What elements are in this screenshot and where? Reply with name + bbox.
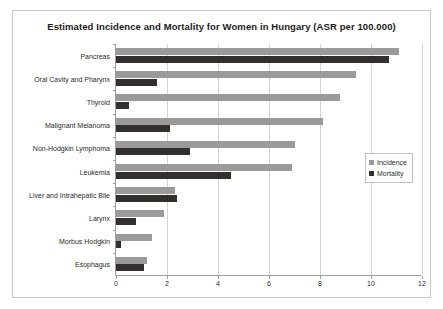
category-label: Non-Hodgkin Lymphoma [33,145,110,152]
bar-mortality [116,56,389,63]
x-axis-tick-label: 6 [267,280,271,287]
chart-container: Estimated Incidence and Mortality for Wo… [12,10,431,298]
category-label: Morbus Hodgkin [59,238,110,245]
category-label: Larynx [89,214,110,221]
x-axis-tick [422,276,423,279]
bar-incidence [116,118,323,125]
chart-legend: IncidenceMortality [365,153,413,183]
axis-tick [113,90,116,91]
bar-mortality [116,218,136,225]
bar-mortality [116,125,170,132]
bar-mortality [116,79,157,86]
category-label: Liver and Intrahepatic Bile [29,191,110,198]
bar-mortality [116,195,177,202]
bar-mortality [116,264,144,271]
x-axis-tick-label: 8 [318,280,322,287]
chart-category-row: Liver and Intrahepatic Bile [116,183,421,206]
legend-label: Mortality [377,170,403,177]
category-label: Leukemia [80,168,110,175]
bar-incidence [116,48,399,55]
chart-category-row: Malignant Melanoma [116,114,421,137]
category-label: Oral Cavity and Pharynx [34,75,110,82]
axis-tick [113,230,116,231]
chart-title: Estimated Incidence and Mortality for Wo… [13,21,430,32]
chart-category-row: Morbus Hodgkin [116,230,421,253]
axis-tick [113,183,116,184]
category-label: Malignant Melanoma [45,122,110,129]
legend-item: Incidence [369,157,407,168]
bar-incidence [116,164,292,171]
x-axis-tick [218,276,219,279]
chart-category-row: Thyroid [116,90,421,113]
x-axis-tick [167,276,168,279]
category-label: Thyroid [87,98,110,105]
legend-swatch-icon [369,160,374,165]
x-axis-tick-label: 10 [367,280,375,287]
x-axis-tick-label: 2 [165,280,169,287]
x-axis-tick [116,276,117,279]
bar-mortality [116,148,190,155]
gridline [422,44,423,275]
legend-label: Incidence [377,159,407,166]
bar-incidence [116,234,152,241]
x-axis-tick-label: 4 [216,280,220,287]
chart-category-row: Larynx [116,206,421,229]
category-label: Pancreas [80,52,110,59]
axis-tick [113,206,116,207]
axis-tick [113,114,116,115]
chart-category-row: Pancreas [116,44,421,67]
legend-swatch-icon [369,171,374,176]
axis-tick [113,67,116,68]
axis-tick [113,44,116,45]
x-axis-tick [320,276,321,279]
bar-incidence [116,210,164,217]
x-axis-tick [371,276,372,279]
bar-incidence [116,71,356,78]
axis-tick [113,137,116,138]
category-label: Esophagus [75,261,110,268]
bar-incidence [116,187,175,194]
axis-tick [113,160,116,161]
x-axis-tick [269,276,270,279]
x-axis-tick-label: 0 [114,280,118,287]
legend-item: Mortality [369,168,407,179]
axis-tick [113,253,116,254]
bar-incidence [116,141,295,148]
bar-incidence [116,94,340,101]
bar-mortality [116,241,121,248]
chart-category-row: Oral Cavity and Pharynx [116,67,421,90]
bar-mortality [116,172,231,179]
bar-incidence [116,257,147,264]
chart-category-row: Esophagus [116,253,421,276]
x-axis-tick-label: 12 [418,280,426,287]
bar-mortality [116,102,129,109]
